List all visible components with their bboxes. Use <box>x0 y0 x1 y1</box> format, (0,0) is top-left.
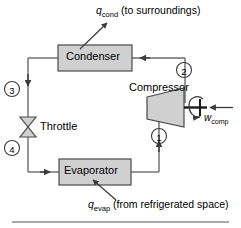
w-comp-subscript: comp <box>211 118 228 125</box>
heat-rejected-label: qcond (to surroundings) <box>96 5 200 19</box>
q-evap-description: (from refrigerated space) <box>113 198 229 210</box>
state-label-2: 2 <box>179 66 189 77</box>
q-cond-subscript: cond <box>102 10 118 19</box>
state-label-3: 3 <box>7 85 17 96</box>
flow-arrows <box>28 58 159 172</box>
state-label-1: 1 <box>154 132 164 143</box>
state-label-4: 4 <box>7 144 17 155</box>
heat-absorbed-label: qevap (from refrigerated space) <box>88 199 229 213</box>
compressor-body <box>147 88 184 127</box>
q-cond-description: (to surroundings) <box>121 4 200 16</box>
throttle-label: Throttle <box>40 121 77 132</box>
compressor-label: Compressor <box>129 82 189 93</box>
work-input-label: wcomp <box>204 113 228 125</box>
throttle-valve-symbol <box>20 117 36 137</box>
q-evap-subscript: evap <box>94 204 110 213</box>
condenser-label: Condenser <box>66 51 120 62</box>
refrigeration-cycle-figure: qcond (to surroundings) Condenser Compre… <box>0 0 241 228</box>
evaporator-label: Evaporator <box>64 165 118 176</box>
